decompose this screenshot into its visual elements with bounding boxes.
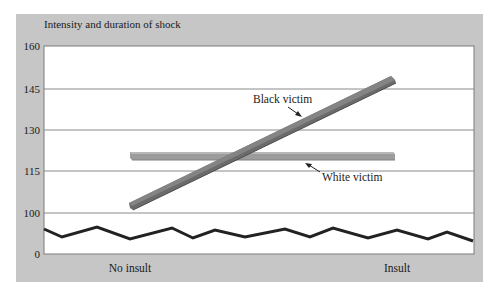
y-tick-160: 160	[24, 40, 41, 52]
series-white-victim	[130, 152, 395, 160]
y-tick-100: 100	[24, 207, 41, 219]
plot-area	[44, 46, 474, 254]
y-tick-115: 115	[24, 165, 41, 177]
y-tick-0: 0	[35, 248, 41, 260]
x-label-no-insult: No insult	[109, 262, 152, 274]
x-label-insult: Insult	[384, 262, 411, 274]
label-white-victim: White victim	[322, 171, 382, 183]
chart: Intensity and duration of shock 160 145 …	[0, 0, 494, 296]
y-tick-145: 145	[24, 83, 41, 95]
chart-title: Intensity and duration of shock	[44, 18, 181, 30]
y-tick-130: 130	[24, 124, 41, 136]
label-black-victim: Black victim	[253, 93, 312, 105]
y-axis-ticks: 160 145 130 115 100 0	[24, 40, 41, 260]
